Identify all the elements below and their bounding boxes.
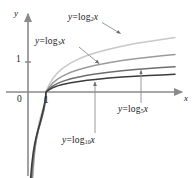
curve-label-log3: y=log3x [35,37,65,47]
y-axis-label: y [14,9,18,18]
curve-log10 [31,74,175,178]
origin-label: 0 [17,95,22,105]
curve-label-log3-arg: x [61,36,65,46]
curve-label-log10: y=log10x [62,136,95,146]
curve-label-log10-fn: log [72,135,85,145]
y-tick-label-one: 1 [16,55,21,65]
leader-log3 [79,47,99,64]
curve-label-log2-arg: x [94,12,98,22]
curve-label-log10-arg: x [91,135,95,145]
x-axis-label: x [184,94,188,103]
curve-group [31,38,175,178]
chart-canvas [0,0,196,178]
curve-label-log5: y=log5x [118,105,148,115]
leader-log2 [102,23,121,34]
curve-label-log2: y=log2x [68,13,98,23]
curve-log2 [33,38,175,178]
curve-label-log5-arg: x [144,104,148,114]
logarithm-curves-figure: y x 1 0 1 y=log2x y=log3x y=log5x y=log1… [0,0,196,178]
curve-label-log3-fn: log [45,36,58,46]
axes [6,14,182,176]
curve-label-log5-fn: log [128,104,141,114]
x-tick-label-one: 1 [44,96,49,106]
curve-label-log2-fn: log [78,12,91,22]
